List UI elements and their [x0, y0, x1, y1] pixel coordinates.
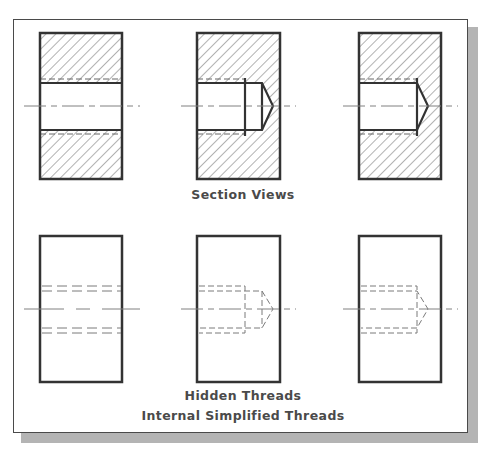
section-view-bottomed-hole — [343, 33, 458, 179]
section-view-blind-hole-drill — [181, 33, 296, 179]
hidden-view-through-hole — [24, 236, 140, 382]
hidden-view-blind-hole-drill — [181, 236, 296, 382]
hidden-threads-label: Hidden Threads — [0, 388, 486, 403]
technical-drawing — [0, 0, 486, 452]
section-views-label: Section Views — [0, 187, 486, 202]
section-view-through-hole — [24, 33, 140, 179]
hidden-view-bottomed-hole — [343, 236, 458, 382]
figure-caption: Internal Simplified Threads — [0, 408, 486, 423]
